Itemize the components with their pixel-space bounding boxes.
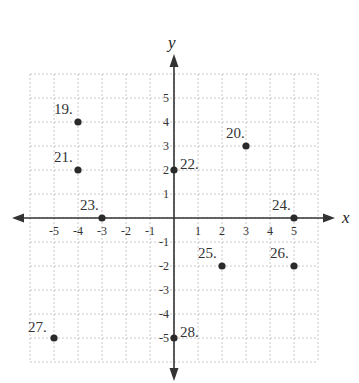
x-tick-label: -4 (73, 224, 83, 238)
y-axis-label: y (166, 33, 176, 52)
point-marker-icon (170, 334, 177, 341)
y-tick-label: 1 (163, 187, 169, 201)
point-marker-icon (290, 262, 297, 269)
x-tick-label: -3 (97, 224, 107, 238)
y-tick-label: 4 (163, 115, 169, 129)
x-tick-label: 1 (195, 224, 201, 238)
point-marker-icon (242, 142, 249, 149)
point-label: 23. (80, 197, 99, 213)
point-marker-icon (50, 334, 57, 341)
y-axis-up-arrow-icon (170, 54, 179, 67)
point-marker-icon (218, 262, 225, 269)
point-marker-icon (290, 214, 297, 221)
x-axis-label: x (341, 208, 350, 227)
point-label: 28. (180, 324, 199, 340)
point-label: 27. (28, 319, 47, 335)
data-points: 19.20.21.22.23.24.25.26.27.28. (28, 101, 298, 342)
y-tick-label: -2 (159, 259, 169, 273)
point-label: 19. (54, 101, 73, 117)
y-tick-label: -5 (159, 331, 169, 345)
point-marker-icon (74, 118, 81, 125)
x-tick-label: -5 (49, 224, 59, 238)
point-label: 21. (54, 149, 73, 165)
y-tick-label: 3 (163, 139, 169, 153)
y-tick-label: -1 (159, 235, 169, 249)
y-axis-down-arrow-icon (170, 368, 179, 381)
point-marker-icon (74, 166, 81, 173)
point-label: 24. (272, 197, 291, 213)
x-tick-label: 2 (219, 224, 225, 238)
y-tick-label: -3 (159, 283, 169, 297)
x-tick-label: -2 (121, 224, 131, 238)
x-tick-label: 4 (267, 224, 273, 238)
x-axis-right-arrow-icon (323, 214, 335, 223)
x-axis-left-arrow-icon (12, 214, 24, 223)
point-label: 20. (226, 125, 245, 141)
point-label: 22. (180, 156, 199, 172)
point-marker-icon (170, 166, 177, 173)
y-tick-label: 5 (163, 91, 169, 105)
point-label: 25. (198, 245, 217, 261)
coordinate-plane: -5-4-3-2-112345-5-4-3-2-112345 19.20.21.… (0, 0, 359, 383)
point-marker-icon (98, 214, 105, 221)
x-tick-label: 5 (291, 224, 297, 238)
x-tick-label: -1 (145, 224, 155, 238)
point-label: 26. (270, 245, 289, 261)
data-point: 20. (226, 125, 250, 150)
y-tick-label: -4 (159, 307, 169, 321)
x-tick-label: 3 (243, 224, 249, 238)
y-tick-label: 2 (163, 163, 169, 177)
